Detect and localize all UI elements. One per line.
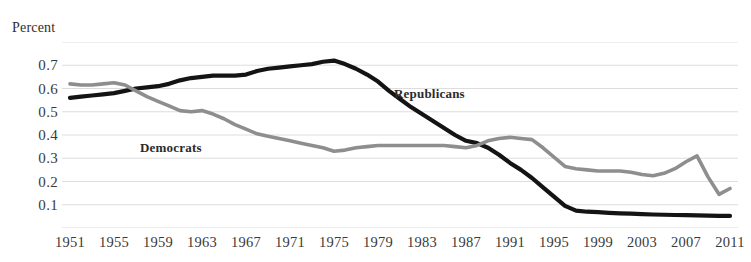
y-tick-label: 0.5 (18, 103, 58, 120)
x-tick-label: 1979 (363, 234, 393, 251)
series-label-republicans: Republicans (394, 86, 465, 102)
series-label-democrats: Democrats (140, 140, 202, 156)
percent-line-chart: Percent 0.10.20.30.40.50.60.7 1951195519… (0, 0, 751, 262)
x-tick-label: 1983 (407, 234, 437, 251)
y-tick-label: 0.1 (18, 196, 58, 213)
x-tick-label: 1955 (99, 234, 129, 251)
x-tick-label: 1967 (231, 234, 261, 251)
x-tick-label: 1971 (275, 234, 305, 251)
plot-svg (62, 42, 738, 228)
y-tick-label: 0.3 (18, 150, 58, 167)
y-axis-tick-labels: 0.10.20.30.40.50.60.7 (8, 0, 58, 262)
y-tick-label: 0.4 (18, 127, 58, 144)
plot-area (62, 42, 738, 228)
x-tick-label: 1963 (187, 234, 217, 251)
x-tick-label: 1999 (583, 234, 613, 251)
x-axis-tick-labels: 1951195519591963196719711975197919831987… (0, 230, 751, 262)
series-lines (70, 61, 730, 216)
y-tick-label: 0.6 (18, 80, 58, 97)
gridlines (62, 42, 738, 228)
x-tick-label: 1975 (319, 234, 349, 251)
x-tick-label: 1995 (539, 234, 569, 251)
cropped-title-fragment (180, 0, 580, 9)
x-tick-label: 2007 (671, 234, 701, 251)
series-line-republicans (70, 61, 730, 216)
x-tick-label: 2003 (627, 234, 657, 251)
x-tick-label: 1991 (495, 234, 525, 251)
x-tick-label: 1959 (143, 234, 173, 251)
y-tick-label: 0.2 (18, 173, 58, 190)
x-tick-label: 1951 (55, 234, 85, 251)
x-tick-label: 2011 (715, 234, 744, 251)
x-tick-label: 1987 (451, 234, 481, 251)
y-tick-label: 0.7 (18, 57, 58, 74)
